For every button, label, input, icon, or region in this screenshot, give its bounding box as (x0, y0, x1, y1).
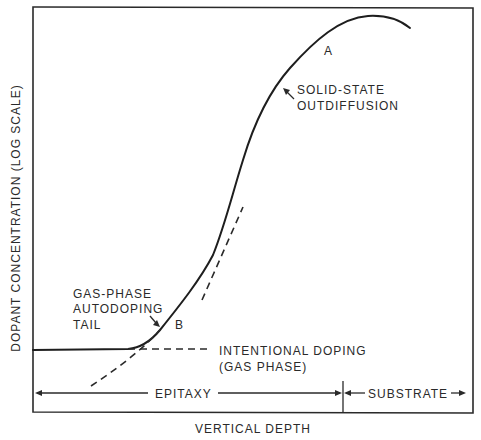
epitaxy-right-arrowhead-icon (335, 390, 342, 396)
solid-state-pointer-arrow (287, 92, 294, 99)
autodoping-profile-diagram: DOPANT CONCENTRATION (LOG SCALE) VERTICA… (0, 0, 481, 440)
gas-phase-label-line1: GAS-PHASE (73, 287, 152, 301)
epitaxy-left-arrowhead-icon (35, 390, 42, 396)
substrate-region-label: SUBSTRATE (368, 387, 448, 401)
x-axis-label: VERTICAL DEPTH (195, 422, 311, 436)
label-point-a: A (324, 44, 333, 58)
epitaxy-region-label: EPITAXY (155, 387, 212, 401)
gas-phase-label-line3: TAIL (73, 318, 101, 332)
intentional-doping-label-line2: (GAS PHASE) (219, 360, 307, 374)
autodoping-extrapolation-dashed-line (91, 330, 160, 386)
outdiffusion-tangent-dashed-line (202, 207, 243, 300)
y-axis-label: DOPANT CONCENTRATION (LOG SCALE) (9, 84, 23, 351)
gas-phase-label-line2: AUTODOPING (73, 302, 163, 316)
gas-phase-pointer-arrow (150, 316, 156, 323)
solid-state-label-line2: OUTDIFFUSION (297, 99, 399, 113)
solid-state-label-line1: SOLID-STATE (297, 83, 385, 97)
label-point-b: B (175, 318, 184, 332)
intentional-doping-label-line1: INTENTIONAL DOPING (219, 344, 367, 358)
substrate-right-arrowhead-icon (459, 390, 466, 396)
